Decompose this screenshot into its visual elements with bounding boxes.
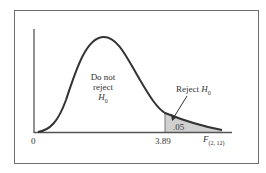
x-tick-origin: 0 [31, 136, 36, 146]
x-axis-label: F(2, 12) [203, 134, 225, 148]
x-tick-critical: 3.89 [155, 136, 171, 146]
f-distribution-chart [0, 0, 266, 173]
reject-arrow [174, 96, 187, 117]
reject-region-label: Reject H0 [176, 84, 211, 98]
alpha-label: .05 [173, 122, 184, 132]
accept-region-label: Do not reject H0 [90, 72, 116, 106]
